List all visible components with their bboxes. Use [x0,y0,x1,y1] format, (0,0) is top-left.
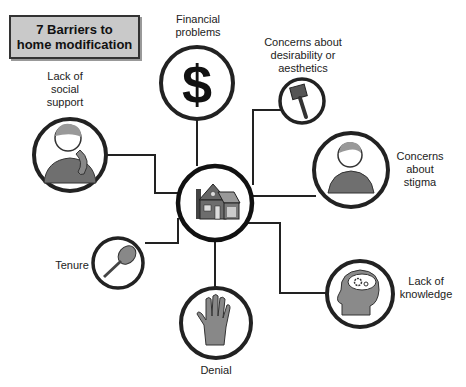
diagram-canvas: $ [0,0,466,387]
denial-label: Denial [192,364,240,377]
label-line: Lack of [398,275,454,288]
dollar-icon: $ [182,54,212,114]
label-line: Concerns [394,150,446,163]
label-line: about [394,163,446,176]
denial-node [181,288,251,358]
aesthetics-node [280,79,324,123]
label-line: Denial [192,364,240,377]
label-line: social [42,83,88,96]
label-line: knowledge [398,288,454,301]
center-node [178,166,252,240]
tenure-node [93,238,143,288]
social-label: Lack of social support [42,70,88,109]
knowledge-node [327,261,393,327]
financial-label: Financial problems [170,13,226,39]
label-line: stigma [394,176,446,189]
label-line: aesthetics [255,62,351,75]
tenure-label: Tenure [52,259,92,272]
label-line: support [42,96,88,109]
knowledge-label: Lack of knowledge [398,275,454,301]
stigma-label: Concerns about stigma [394,150,446,189]
label-line: desirability or [255,49,351,62]
label-line: Financial [170,13,226,26]
aesthetics-label: Concerns about desirability or aesthetic… [255,36,351,75]
stigma-node [314,133,388,207]
financial-node: $ [161,47,233,119]
label-line: Concerns about [255,36,351,49]
label-line: Tenure [52,259,92,272]
label-line: Lack of [42,70,88,83]
social-node [34,119,106,191]
label-line: problems [170,26,226,39]
